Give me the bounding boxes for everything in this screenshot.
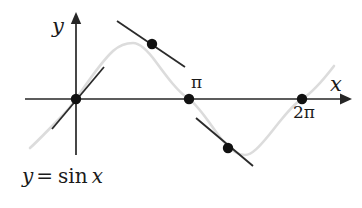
equation-function: sin <box>56 164 88 188</box>
y-axis-arrowhead <box>71 12 81 24</box>
equation-operator: = <box>33 164 56 188</box>
point-lower-tangency <box>223 143 233 153</box>
equation-caption: y=sinx <box>22 166 103 186</box>
tick-label-two-pi: 2π <box>293 104 315 121</box>
point-upper-tangency <box>147 39 157 49</box>
point-pi <box>184 94 194 104</box>
y-axis-label: y <box>52 16 64 37</box>
tangent-lower <box>196 118 253 166</box>
x-axis-label: x <box>330 74 342 95</box>
tick-label-pi: π <box>191 74 202 91</box>
sine-graph-figure: y x π 2π y=sinx <box>0 0 362 208</box>
y-axis <box>71 12 81 155</box>
equation-argument: x <box>88 164 103 188</box>
point-origin <box>71 94 81 104</box>
equation-lhs: y <box>22 164 33 188</box>
